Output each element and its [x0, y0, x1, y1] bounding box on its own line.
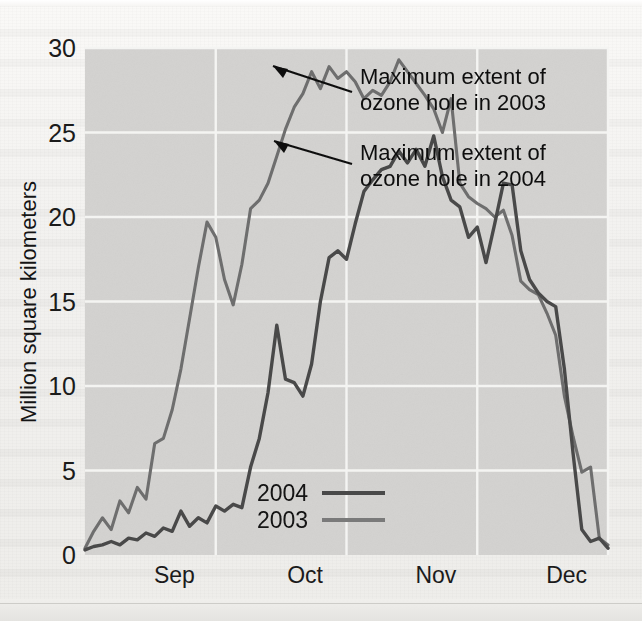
y-tick-label: 20: [48, 203, 76, 231]
annotation-2004-line2: ozone hole in 2004: [360, 166, 546, 191]
x-tick-label: Sep: [154, 562, 195, 588]
annotation-2004-line1: Maximum extent of: [360, 140, 547, 165]
legend-label-2003: 2003: [257, 507, 308, 533]
legend-label-2004: 2004: [257, 480, 308, 506]
annotation-2004: Maximum extent of ozone hole in 2004: [360, 140, 547, 191]
annotation-2003-line2: ozone hole in 2003: [360, 90, 546, 115]
y-tick-label: 15: [48, 288, 76, 316]
y-tick-label: 30: [48, 34, 76, 62]
x-axis-tick-labels: SepOctNovDec: [154, 562, 587, 588]
x-tick-label: Oct: [287, 562, 323, 588]
y-tick-label: 0: [62, 541, 76, 569]
ozone-hole-extent-line-chart: 051015202530 SepOctNovDec Million square…: [0, 0, 642, 621]
y-tick-label: 5: [62, 457, 76, 485]
y-tick-label: 25: [48, 119, 76, 147]
x-tick-label: Nov: [415, 562, 456, 588]
y-tick-label: 10: [48, 372, 76, 400]
x-tick-label: Dec: [546, 562, 587, 588]
y-axis-tick-labels: 051015202530: [48, 34, 76, 569]
y-axis-title: Million square kilometers: [16, 181, 41, 423]
annotation-2003: Maximum extent of ozone hole in 2003: [360, 64, 547, 115]
annotation-2003-line1: Maximum extent of: [360, 64, 547, 89]
